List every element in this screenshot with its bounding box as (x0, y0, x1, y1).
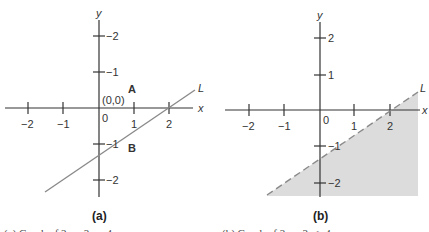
x-tick-label: −1 (57, 118, 70, 130)
line-label-a: L (198, 82, 204, 94)
y-tick-label: −1 (106, 138, 119, 150)
x-axis-label-a: x (197, 102, 204, 114)
panel-a: y x L −2 −1 0 1 2 −2 −1 −1 −2 (0,0) A B … (4, 7, 204, 232)
y-tick-label: −2 (328, 177, 341, 189)
y-tick-label: −2 (106, 174, 119, 186)
panel-b: y x L −2 −1 0 1 2 2 1 −1 −2 (b) (b) Grap… (222, 9, 428, 232)
x-tick-label: −2 (242, 120, 255, 132)
subcaption-a: (a) Graph of 2x − 3y = 4 (4, 227, 113, 232)
y-tick-label: 1 (328, 69, 334, 81)
caption-a: (a) (92, 209, 107, 223)
x-tick-label: 1 (351, 120, 357, 132)
y-axis-label-a: y (95, 7, 103, 19)
x-tick-label: 0 (102, 112, 108, 124)
y-tick-label: −1 (106, 66, 119, 78)
caption-b: (b) (313, 209, 328, 223)
figure: y x L −2 −1 0 1 2 −2 −1 −1 −2 (0,0) A B … (0, 0, 429, 232)
subcaption-b: (b) Graph of 2x − 3y > 4 (222, 227, 331, 232)
y-tick-label: −1 (328, 140, 341, 152)
x-tick-label: 2 (387, 120, 393, 132)
x-tick-label: −1 (278, 120, 291, 132)
x-tick-label: 0 (323, 114, 329, 126)
x-tick-label: 2 (166, 118, 172, 130)
x-tick-label: −2 (21, 118, 34, 130)
point-label-b: B (128, 142, 136, 154)
x-axis-label-b: x (421, 104, 428, 116)
point-label-a: A (128, 83, 136, 95)
line-label-b: L (420, 82, 426, 94)
y-tick-label: −2 (106, 30, 119, 42)
x-tick-label: 1 (131, 118, 137, 130)
origin-label: (0,0) (102, 94, 125, 106)
y-tick-label: 2 (328, 32, 334, 44)
y-axis-label-b: y (316, 9, 324, 21)
